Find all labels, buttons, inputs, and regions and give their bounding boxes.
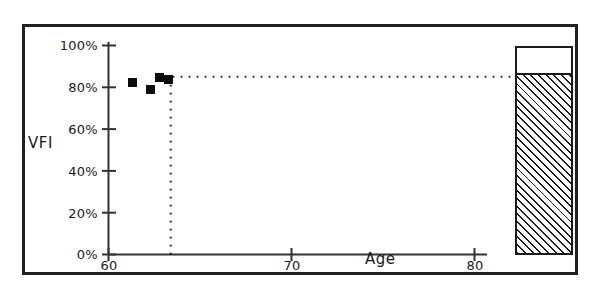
data-point-marker bbox=[128, 78, 137, 87]
y-tick-label-80: 80% bbox=[52, 80, 98, 95]
data-point-marker bbox=[164, 75, 173, 84]
y-tick-label-20: 20% bbox=[52, 206, 98, 221]
y-tick-label-60: 60% bbox=[52, 122, 98, 137]
data-point-marker bbox=[146, 85, 155, 94]
data-point-marker bbox=[155, 73, 164, 82]
chart-screenshot: 100% 80% 60% 40% 20% 0% 60 70 80 VFI Age bbox=[0, 0, 596, 290]
y-axis-title: VFI bbox=[28, 134, 53, 152]
y-tick-label-40: 40% bbox=[52, 164, 98, 179]
chart-frame-border bbox=[22, 24, 578, 275]
summary-bar-fill bbox=[517, 73, 572, 253]
y-tick-label-100: 100% bbox=[52, 38, 98, 53]
x-tick-label-70: 70 bbox=[272, 258, 312, 273]
x-tick-label-80: 80 bbox=[455, 258, 495, 273]
x-axis-title: Age bbox=[365, 250, 396, 268]
summary-bar bbox=[515, 46, 574, 255]
x-tick-label-60: 60 bbox=[89, 258, 129, 273]
